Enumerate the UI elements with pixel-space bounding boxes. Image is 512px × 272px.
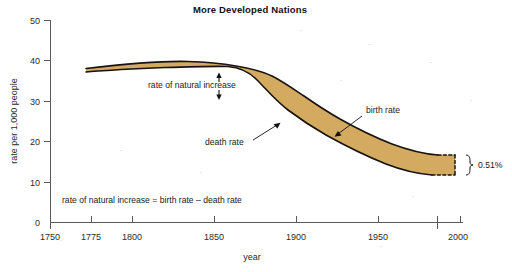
chart-background: [0, 0, 512, 272]
x-axis-title: year: [243, 252, 261, 262]
percent-bracket-label: 0.51%: [478, 160, 503, 170]
x-tick-label-1900: 1900: [286, 232, 306, 242]
y-tick-label-50: 50: [30, 16, 40, 26]
y-tick-label-10: 10: [30, 178, 40, 188]
death-rate-label: death rate: [205, 137, 244, 147]
natural-increase-label: rate of natural increase: [148, 80, 236, 90]
x-tick-label-1775: 1775: [81, 232, 101, 242]
x-tick-label-1950: 1950: [368, 232, 388, 242]
formula-label: rate of natural increase = birth rate – …: [62, 195, 242, 205]
y-tick-label-0: 0: [35, 218, 40, 228]
x-tick-label-2000: 2000: [448, 232, 468, 242]
x-tick-label-1800: 1800: [122, 232, 142, 242]
birth-rate-label: birth rate: [366, 105, 400, 115]
x-tick-label-1750: 1750: [40, 232, 60, 242]
y-tick-label-20: 20: [30, 137, 40, 147]
y-tick-label-30: 30: [30, 97, 40, 107]
y-tick-label-40: 40: [30, 56, 40, 66]
chart-figure: More Developed Nations 50 40 30: [0, 0, 512, 272]
chart-title: More Developed Nations: [193, 4, 307, 15]
x-tick-label-1850: 1850: [204, 232, 224, 242]
population-rates-area-chart: More Developed Nations 50 40 30: [0, 0, 512, 272]
y-axis-title: rate per 1,000 people: [9, 78, 19, 164]
